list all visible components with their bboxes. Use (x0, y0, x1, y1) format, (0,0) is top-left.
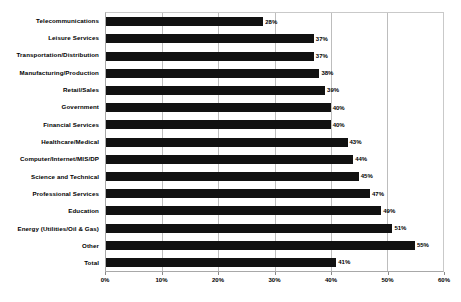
bar-value-label: 40% (333, 122, 345, 128)
bar: 38% (106, 69, 319, 78)
category-label: Transportation/Distribution (17, 52, 99, 58)
x-axis: 0%10%20%30%40%50%60% (105, 272, 444, 298)
bar: 40% (106, 120, 331, 129)
bar-value-label: 55% (417, 242, 429, 248)
x-tick-mark (162, 272, 163, 275)
bar: 49% (106, 206, 381, 215)
category-label: Manufacturing/Production (20, 70, 99, 76)
category-label: Financial Services (43, 122, 99, 128)
bar-row: 28% (106, 13, 443, 30)
category-label: Professional Services (33, 191, 99, 197)
x-tick-mark (105, 272, 106, 275)
category-row: Transportation/Distribution (0, 47, 103, 64)
bar-value-label: 37% (316, 36, 328, 42)
bar-value-label: 41% (338, 259, 350, 265)
category-label: Retail/Sales (63, 87, 99, 93)
bar-value-label: 44% (355, 156, 367, 162)
bar-row: 37% (106, 30, 443, 47)
category-axis: TelecommunicationsLeisure ServicesTransp… (0, 12, 103, 272)
bar: 39% (106, 86, 325, 95)
category-label: Science and Technical (31, 174, 99, 180)
plot-area: 28%37%37%38%39%40%40%43%44%45%47%49%51%5… (105, 12, 444, 272)
bar: 44% (106, 155, 353, 164)
x-tick-label: 50% (381, 277, 393, 283)
bar: 45% (106, 172, 359, 181)
bar: 28% (106, 17, 263, 26)
category-row: Computer/Internet/MIS/DP (0, 151, 103, 168)
category-row: Education (0, 203, 103, 220)
bar-value-label: 49% (383, 208, 395, 214)
bar: 55% (106, 241, 415, 250)
bar-row: 40% (106, 116, 443, 133)
category-label: Healthcare/Medical (41, 139, 99, 145)
bar-value-label: 40% (333, 105, 345, 111)
bar-row: 45% (106, 168, 443, 185)
category-row: Retail/Sales (0, 81, 103, 98)
x-tick-label: 60% (438, 277, 450, 283)
bar: 37% (106, 34, 314, 43)
x-tick-label: 10% (155, 277, 167, 283)
category-label: Telecommunications (36, 18, 99, 24)
category-row: Financial Services (0, 116, 103, 133)
x-tick-mark (388, 272, 389, 275)
bar-row: 41% (106, 254, 443, 271)
bar-row: 44% (106, 151, 443, 168)
x-tick-label: 0% (101, 277, 110, 283)
bar-chart: TelecommunicationsLeisure ServicesTransp… (0, 0, 461, 302)
bar-row: 40% (106, 99, 443, 116)
category-row: Healthcare/Medical (0, 133, 103, 150)
x-tick-mark (218, 272, 219, 275)
x-tick-label: 20% (212, 277, 224, 283)
category-row: Professional Services (0, 185, 103, 202)
bar: 51% (106, 224, 392, 233)
bar-row: 55% (106, 237, 443, 254)
x-tick-mark (444, 272, 445, 275)
category-label: Government (62, 104, 99, 110)
bar-row: 43% (106, 133, 443, 150)
category-row: Science and Technical (0, 168, 103, 185)
category-label: Total (84, 260, 99, 266)
bar-value-label: 43% (350, 139, 362, 145)
x-tick-mark (331, 272, 332, 275)
bar-value-label: 51% (394, 225, 406, 231)
category-row: Manufacturing/Production (0, 64, 103, 81)
bar: 43% (106, 138, 348, 147)
x-tick-label: 40% (325, 277, 337, 283)
category-label: Other (82, 243, 99, 249)
bar-row: 37% (106, 47, 443, 64)
x-tick-label: 30% (268, 277, 280, 283)
bar-row: 49% (106, 202, 443, 219)
bar: 41% (106, 258, 336, 267)
bar: 37% (106, 52, 314, 61)
bar-row: 47% (106, 185, 443, 202)
category-row: Total (0, 255, 103, 272)
category-row: Government (0, 99, 103, 116)
category-row: Leisure Services (0, 29, 103, 46)
category-label: Energy (Utilities/Oil & Gas) (17, 226, 99, 232)
bar-value-label: 47% (372, 191, 384, 197)
category-label: Education (68, 208, 99, 214)
bar: 47% (106, 189, 370, 198)
bar-value-label: 37% (316, 53, 328, 59)
x-tick-mark (275, 272, 276, 275)
bar-row: 39% (106, 82, 443, 99)
category-row: Telecommunications (0, 12, 103, 29)
bar-value-label: 45% (361, 173, 373, 179)
category-row: Energy (Utilities/Oil & Gas) (0, 220, 103, 237)
bar-row: 51% (106, 219, 443, 236)
bar-value-label: 39% (327, 87, 339, 93)
bar: 40% (106, 103, 331, 112)
category-row: Other (0, 237, 103, 254)
bars-container: 28%37%37%38%39%40%40%43%44%45%47%49%51%5… (106, 13, 443, 271)
bar-row: 38% (106, 65, 443, 82)
bar-value-label: 28% (265, 19, 277, 25)
bar-value-label: 38% (321, 70, 333, 76)
category-label: Computer/Internet/MIS/DP (20, 156, 99, 162)
category-label: Leisure Services (48, 35, 99, 41)
